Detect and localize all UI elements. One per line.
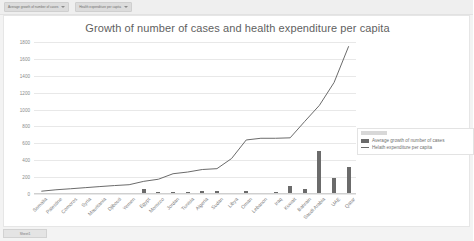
x-axis-line bbox=[34, 193, 356, 194]
chart-container[interactable]: Growth of number of cases and health exp… bbox=[3, 15, 470, 227]
legend-item-expenditure-label: Helath expenditure per capita bbox=[372, 144, 432, 151]
chart-title: Growth of number of cases and health exp… bbox=[4, 22, 471, 34]
series-selector-cases[interactable]: Average growth of number of cases bbox=[4, 2, 69, 12]
y-axis-tick-label: 400 bbox=[22, 158, 30, 163]
x-axis-tick-label: Tunisia bbox=[179, 196, 195, 212]
y-axis-tick-label: 1200 bbox=[20, 90, 30, 95]
x-axis-tick-label: UAE bbox=[330, 196, 342, 208]
x-axis-tick-label: Djibouti bbox=[106, 196, 122, 212]
chevron-down-icon bbox=[61, 6, 65, 8]
chart-series-toolbar: Average growth of number of cases Health… bbox=[0, 0, 473, 15]
x-axis-tick-label: Kuwait bbox=[283, 196, 298, 211]
x-axis-tick-label: Algeria bbox=[194, 196, 209, 211]
chevron-down-icon bbox=[124, 6, 128, 8]
x-axis-tick-label: Yemen bbox=[121, 196, 136, 211]
x-axis-labels: SomaliaPalestineComorosSyriaMauritaniaDj… bbox=[34, 196, 356, 241]
y-axis-tick-label: 600 bbox=[22, 141, 30, 146]
legend-bar-swatch-icon bbox=[361, 139, 369, 143]
series-selector-expenditure-label: Health expenditure per capita bbox=[79, 3, 121, 11]
y-axis-tick-label: 1400 bbox=[20, 73, 30, 78]
x-axis-tick-label: Libya bbox=[226, 196, 239, 209]
x-axis-tick-label: Jordan bbox=[165, 196, 180, 211]
y-axis-tick-label: 1000 bbox=[20, 107, 30, 112]
sheet-tab[interactable]: Sheet1 bbox=[3, 229, 47, 238]
y-axis-tick-label: 1800 bbox=[20, 40, 30, 45]
legend-header-bar bbox=[361, 131, 387, 135]
y-axis-tick-label: 200 bbox=[22, 175, 30, 180]
series-selector-cases-label: Average growth of number of cases bbox=[8, 3, 58, 11]
y-axis-tick-label: 1600 bbox=[20, 56, 30, 61]
y-axis-tick-label: 0 bbox=[27, 192, 30, 197]
plot-area: 020040060080010001200140016001800 bbox=[34, 42, 356, 194]
y-axis-tick-label: 800 bbox=[22, 124, 30, 129]
series-selector-expenditure[interactable]: Health expenditure per capita bbox=[75, 2, 132, 12]
x-axis-tick-label: Sudan bbox=[210, 196, 224, 210]
legend-item-cases-label: Average growth of number of cases bbox=[372, 137, 444, 144]
line-series-group bbox=[34, 42, 356, 194]
legend-item-expenditure[interactable]: Helath expenditure per capita bbox=[361, 144, 470, 151]
legend-item-cases[interactable]: Average growth of number of cases bbox=[361, 137, 470, 144]
line-path[interactable] bbox=[41, 46, 348, 191]
legend-line-swatch-icon bbox=[361, 147, 369, 148]
x-axis-tick-label: Iraq bbox=[272, 196, 282, 206]
chart-legend[interactable]: Average growth of number of cases Helath… bbox=[357, 128, 474, 155]
x-axis-tick-label: Qatar bbox=[343, 196, 356, 209]
